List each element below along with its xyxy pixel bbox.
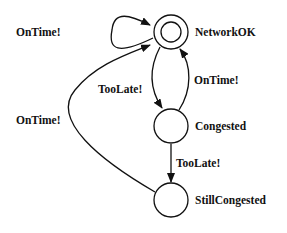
node-label-networkok: NetworkOK <box>195 26 256 38</box>
node-label-congested: Congested <box>195 120 247 133</box>
edge-label-congested-networkok: OnTime! <box>194 74 239 86</box>
node-networkok <box>154 15 188 49</box>
state-diagram: OnTime! TooLate! OnTime! TooLate! OnTime… <box>0 0 287 233</box>
node-stillcongested <box>154 183 188 217</box>
edge-label-stillcongested-networkok: OnTime! <box>16 114 61 126</box>
edge-label-networkok-congested: TooLate! <box>98 83 142 95</box>
node-congested <box>154 109 188 143</box>
edge-self-loop-networkok <box>111 16 153 48</box>
node-label-stillcongested: StillCongested <box>195 194 267 207</box>
edge-label-networkok-self: OnTime! <box>16 26 61 38</box>
edge-label-congested-stillcongested: TooLate! <box>176 157 220 169</box>
edge-congested-to-networkok <box>179 49 189 110</box>
edge-stillcongested-to-networkok <box>68 45 155 192</box>
edge-networkok-to-congested <box>152 47 162 108</box>
